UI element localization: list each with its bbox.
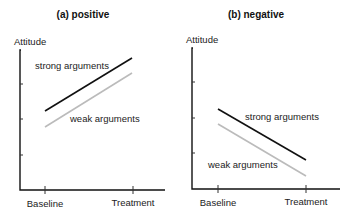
panel-b-strong-label: strong arguments <box>245 111 319 122</box>
panel-a-title: (a) positive <box>57 9 110 20</box>
panel-a-y-axis-label: Attitude <box>14 36 46 47</box>
panel-a-positive: (a) positive Attitude strong arguments w… <box>14 9 165 209</box>
panel-a-weak-label: weak arguments <box>69 113 140 124</box>
figure: (a) positive Attitude strong arguments w… <box>0 0 345 221</box>
panel-b-weak-label: weak arguments <box>207 159 278 170</box>
panel-b-x-label-baseline: Baseline <box>200 197 236 208</box>
panel-b-title: (b) negative <box>228 9 285 20</box>
panel-b-y-axis-label: Attitude <box>186 34 218 45</box>
panel-a-strong-label: strong arguments <box>35 60 109 71</box>
panel-b-x-label-treatment: Treatment <box>285 196 328 207</box>
panel-a-x-label-baseline: Baseline <box>27 198 63 209</box>
panel-a-x-label-treatment: Treatment <box>112 197 155 208</box>
panel-b-negative: (b) negative Attitude strong arguments w… <box>186 9 340 208</box>
